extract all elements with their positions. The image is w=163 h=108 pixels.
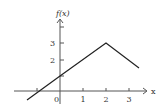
y-tick-label-3: 3 [50, 39, 55, 48]
x-axis-label: x [151, 87, 156, 96]
y-tick-label-2: 2 [50, 56, 55, 65]
y-axis-label: f(x) [55, 9, 70, 18]
x-tick-label-1: 1 [81, 95, 86, 104]
x-tick-label-0: 0 [54, 95, 59, 104]
x-tick-label-2: 2 [104, 95, 109, 104]
chart: 0 1 2 3 2 3 f(x) x [0, 0, 163, 108]
x-tick-label-3: 3 [127, 95, 132, 104]
